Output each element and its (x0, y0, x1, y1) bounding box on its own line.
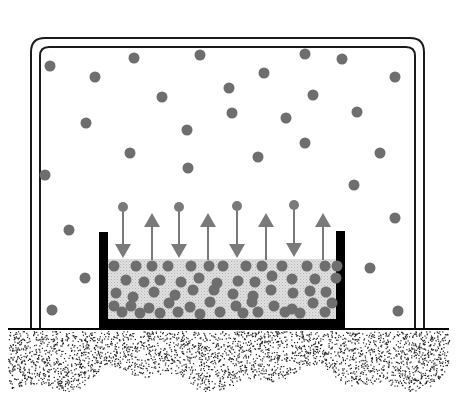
liquid-molecule (188, 285, 199, 296)
liquid-molecule (111, 288, 122, 299)
liquid-molecule (266, 285, 277, 296)
vapor-molecule (337, 54, 348, 65)
liquid-molecule (155, 308, 166, 319)
liquid-molecule (277, 261, 288, 272)
liquid-molecule (257, 261, 268, 272)
vapor-molecule (259, 68, 270, 79)
vapor-molecule (157, 92, 168, 103)
liquid-molecule (305, 286, 316, 297)
vapor-molecule (375, 148, 386, 159)
liquid-molecule (135, 308, 146, 319)
liquid-molecule (139, 277, 150, 288)
condensation-arrow (115, 202, 131, 258)
vapor-molecule (227, 108, 238, 119)
arrow-up-icon (258, 213, 274, 227)
liquid-molecule (241, 261, 252, 272)
vapor-molecule (300, 138, 311, 149)
liquid-molecule (149, 287, 160, 298)
condensation-arrow (171, 202, 187, 258)
liquid-molecule (253, 307, 264, 318)
liquid-molecule (131, 261, 142, 272)
vapor-molecule (390, 72, 401, 83)
liquid-molecule (126, 301, 137, 312)
liquid-molecule (302, 261, 313, 272)
vapor-molecule (129, 53, 140, 64)
liquid-molecule (218, 261, 229, 272)
liquid-molecule (287, 274, 298, 285)
vapor-molecule (64, 225, 75, 236)
arrow-up-icon (144, 213, 160, 227)
liquid-molecule (195, 309, 206, 320)
liquid-molecule (121, 275, 132, 286)
liquid-molecule (295, 308, 306, 319)
liquid-molecule (215, 307, 226, 318)
vapor-molecule (349, 180, 360, 191)
liquid-molecule (186, 261, 197, 272)
vapor-molecule (390, 213, 401, 224)
liquid-molecule (331, 273, 342, 284)
liquid-molecule (247, 297, 258, 308)
liquid-molecule (250, 277, 261, 288)
diagram-canvas (0, 0, 459, 409)
arrow-down-icon (286, 243, 302, 257)
arrow-down-icon (171, 244, 187, 258)
vapor-molecule (81, 118, 92, 129)
vapor-molecule (352, 107, 363, 118)
liquid-molecule (204, 261, 215, 272)
liquid-molecule (267, 271, 278, 282)
arrow-up-icon (315, 213, 331, 227)
vapor-molecule (224, 83, 235, 94)
liquid-molecule (163, 261, 174, 272)
liquid-molecule (117, 307, 128, 318)
liquid-molecule (228, 289, 239, 300)
liquid-molecule (109, 261, 120, 272)
arrow-down-icon (229, 244, 245, 258)
vapor-molecule (40, 170, 51, 181)
vapor-molecule (183, 163, 194, 174)
liquid-molecule (310, 274, 321, 285)
liquid-molecule (147, 261, 158, 272)
exchange-arrows (115, 200, 331, 260)
liquid-molecule (238, 308, 249, 319)
arrow-down-icon (115, 244, 131, 258)
liquid-molecule (194, 273, 205, 284)
vapor-molecule (281, 113, 292, 124)
vapor-molecule (300, 49, 311, 60)
vapor-molecule (80, 273, 91, 284)
liquid-molecule (321, 287, 332, 298)
vapor-molecule (393, 306, 404, 317)
vapor-molecule (90, 72, 101, 83)
vapor-molecule (125, 148, 136, 159)
liquid-molecule (320, 261, 331, 272)
evaporation-arrow (315, 213, 331, 260)
arrow-up-icon (200, 213, 216, 227)
condensation-arrow (229, 201, 245, 258)
liquid-molecule (164, 298, 175, 309)
liquid-molecule (332, 261, 343, 272)
liquid-molecule (173, 307, 184, 318)
evaporation-arrow (144, 213, 160, 260)
liquid-molecule (320, 307, 331, 318)
liquid-molecule (288, 288, 299, 299)
liquid-molecule (155, 275, 166, 286)
vapor-molecule (308, 90, 319, 101)
vapor-molecule (45, 61, 56, 72)
liquid-molecule (308, 298, 319, 309)
liquid-molecule (327, 298, 338, 309)
vapor-molecule (47, 305, 58, 316)
liquid-molecule (280, 307, 291, 318)
ground (8, 329, 450, 392)
liquid-molecule (205, 297, 216, 308)
vapor-molecule (195, 50, 206, 61)
liquid-molecule (185, 302, 196, 313)
liquid-molecule (209, 285, 220, 296)
vapor-molecule (182, 125, 193, 136)
condensation-arrow (286, 200, 302, 257)
liquid-molecule (176, 277, 187, 288)
evaporation-diagram (0, 0, 459, 409)
vapor-molecule (253, 152, 264, 163)
liquid-molecule (269, 301, 280, 312)
liquid-molecule (233, 276, 244, 287)
evaporation-arrow (200, 213, 216, 260)
vapor-molecule (365, 263, 376, 274)
